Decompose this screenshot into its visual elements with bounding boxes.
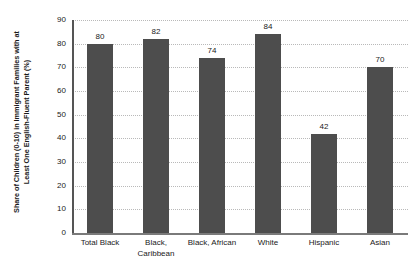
bar-group[interactable]: 80: [72, 20, 128, 233]
bars-layer: 808274844270: [72, 20, 408, 233]
y-axis-tick-label: 10: [44, 205, 66, 213]
y-axis-tick-label: 50: [44, 111, 66, 119]
x-axis-tick-label-line1: Asian: [370, 238, 390, 247]
y-axis-tick-label: 0: [44, 229, 66, 237]
x-axis-tick-label-line1: White: [258, 238, 278, 247]
x-axis-tick-label: Asian: [345, 238, 415, 249]
plot-area: 808274844270: [72, 20, 408, 233]
y-axis-tick-label: 90: [44, 16, 66, 24]
bar-value-label: 70: [352, 55, 408, 64]
bar[interactable]: [311, 134, 337, 233]
bar-chart-figure: Share of Children (0-10) in Immigrant Fa…: [0, 0, 420, 273]
x-axis-tick-label-line2: Caribbean: [121, 249, 191, 260]
y-axis-tick-label: 70: [44, 63, 66, 71]
bar[interactable]: [199, 58, 225, 233]
x-axis-tick-label-line1: Black,: [145, 238, 167, 247]
y-axis-tick-label: 80: [44, 40, 66, 48]
bar[interactable]: [143, 39, 169, 233]
bar[interactable]: [255, 34, 281, 233]
bar[interactable]: [87, 44, 113, 233]
y-axis-title-line2: Least One English-Fluent Parent (%): [22, 31, 32, 213]
y-axis-tick-label: 40: [44, 134, 66, 142]
y-axis-title-line1: Share of Children (0-10) in Immigrant Fa…: [12, 31, 21, 213]
bar[interactable]: [367, 67, 393, 233]
x-axis-baseline: [72, 233, 408, 235]
y-axis-tick-label: 30: [44, 158, 66, 166]
bar-value-label: 84: [240, 22, 296, 31]
x-axis-tick-label-line1: Total Black: [81, 238, 120, 247]
bar-group[interactable]: 84: [240, 20, 296, 233]
bar-group[interactable]: 82: [128, 20, 184, 233]
x-axis-tick-label-line1: Black, African: [188, 238, 236, 247]
bar-group[interactable]: 70: [352, 20, 408, 233]
y-axis-tick-label: 60: [44, 87, 66, 95]
bar-value-label: 82: [128, 27, 184, 36]
bar-value-label: 74: [184, 46, 240, 55]
bar-value-label: 42: [296, 122, 352, 131]
bar-group[interactable]: 74: [184, 20, 240, 233]
y-axis-title: Share of Children (0-10) in Immigrant Fa…: [0, 0, 44, 243]
y-axis-tick-label: 20: [44, 182, 66, 190]
x-axis-tick-label-line1: Hispanic: [309, 238, 340, 247]
bar-value-label: 80: [72, 32, 128, 41]
bar-group[interactable]: 42: [296, 20, 352, 233]
x-axis-tick-labels: Total BlackBlack,CaribbeanBlack, African…: [72, 238, 408, 272]
